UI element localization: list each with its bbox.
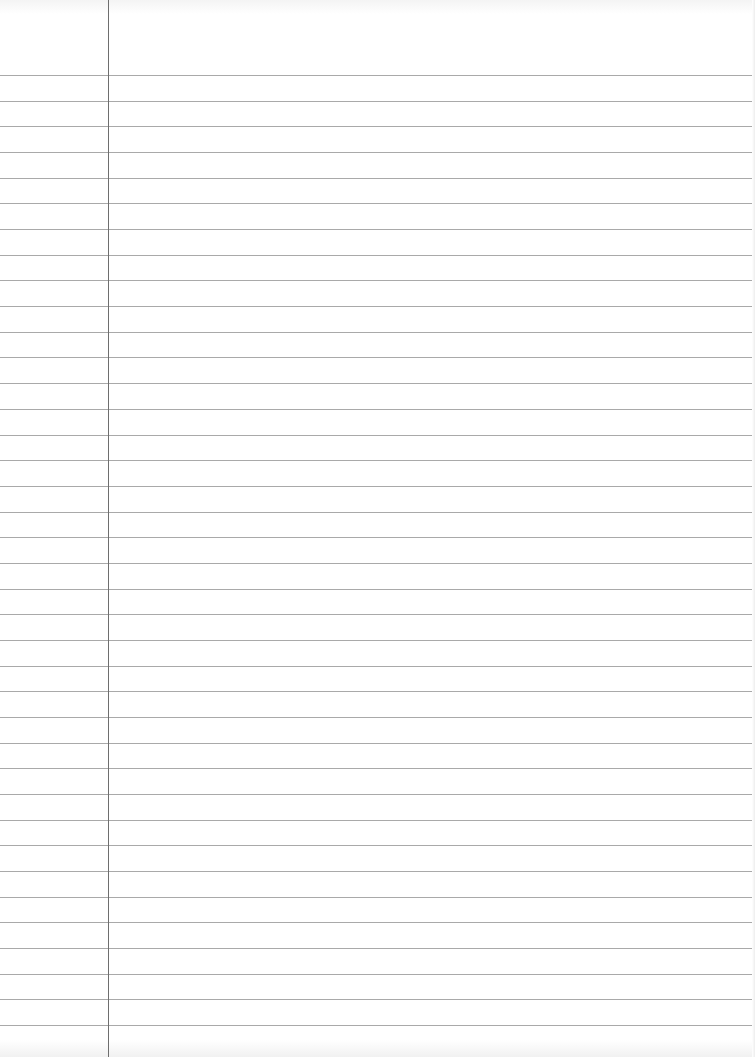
ruled-line (0, 512, 755, 513)
ruled-line (0, 589, 755, 590)
ruled-line (0, 203, 755, 204)
ruled-line (0, 845, 755, 846)
ruled-line (0, 922, 755, 923)
ruled-line (0, 409, 755, 410)
ruled-line (0, 1025, 755, 1026)
ruled-line (0, 794, 755, 795)
ruled-line (0, 75, 755, 76)
ruled-line (0, 999, 755, 1000)
ruled-line (0, 897, 755, 898)
lined-paper-sheet (0, 0, 755, 1057)
ruled-line (0, 126, 755, 127)
ruled-line (0, 383, 755, 384)
ruled-line (0, 537, 755, 538)
ruled-line (0, 332, 755, 333)
ruled-line (0, 563, 755, 564)
ruled-line (0, 460, 755, 461)
margin-line (108, 0, 109, 1057)
ruled-line (0, 691, 755, 692)
ruled-line (0, 717, 755, 718)
ruled-line (0, 743, 755, 744)
ruled-line (0, 357, 755, 358)
ruled-line (0, 640, 755, 641)
ruled-line (0, 101, 755, 102)
ruled-line (0, 435, 755, 436)
ruled-line (0, 820, 755, 821)
ruled-line (0, 229, 755, 230)
ruled-line (0, 486, 755, 487)
ruled-line (0, 178, 755, 179)
ruled-line (0, 614, 755, 615)
ruled-line (0, 871, 755, 872)
ruled-line (0, 768, 755, 769)
ruled-line (0, 280, 755, 281)
ruled-line (0, 255, 755, 256)
ruled-line (0, 948, 755, 949)
ruled-line (0, 666, 755, 667)
ruled-line (0, 306, 755, 307)
ruled-line (0, 152, 755, 153)
ruled-line (0, 974, 755, 975)
